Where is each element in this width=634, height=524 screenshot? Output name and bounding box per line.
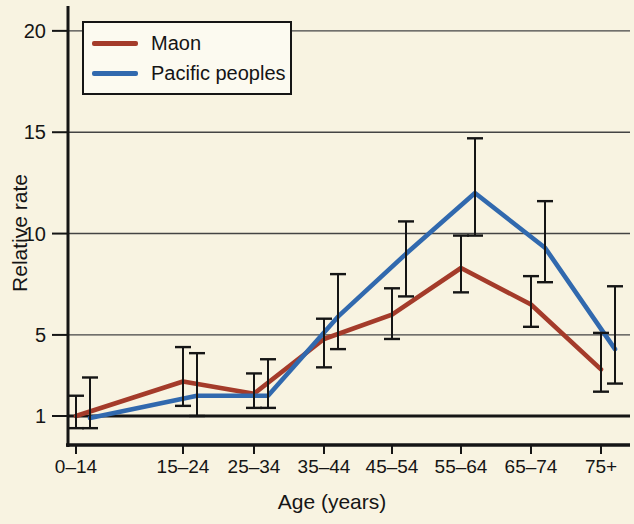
legend-swatch-maon-icon [92,41,138,46]
y-axis-title: Relative rate [8,174,32,292]
x-tick-label-45-54: 45–54 [366,456,419,477]
x-tick-label-35-44: 35–44 [298,456,351,477]
legend-swatch-pacific-peoples-icon [92,71,138,76]
legend-label-pacific-peoples: Pacific peoples [151,63,286,83]
x-tick-label-25-34: 25–34 [228,456,281,477]
y-tick-label-15: 15 [24,121,46,143]
x-tick-label-55-64: 55–64 [435,456,488,477]
x-tick-label-0-14: 0–14 [55,456,98,477]
x-tick-label-15-24: 15–24 [157,456,210,477]
x-tick-label-75-: 75+ [585,456,617,477]
y-tick-label-1: 1 [35,405,46,427]
chart-figure: 151015200–1415–2425–3435–4445–5455–6465–… [0,0,634,524]
legend-item-pacific-peoples: Pacific peoples [92,63,290,83]
x-axis-title: Age (years) [278,490,387,514]
legend: Maon Pacific peoples [82,21,292,95]
y-tick-label-5: 5 [35,324,46,346]
legend-label-maon: Maon [151,33,201,53]
y-tick-label-20: 20 [24,20,46,42]
x-tick-label-65-74: 65–74 [505,456,558,477]
legend-item-maon: Maon [92,33,290,53]
